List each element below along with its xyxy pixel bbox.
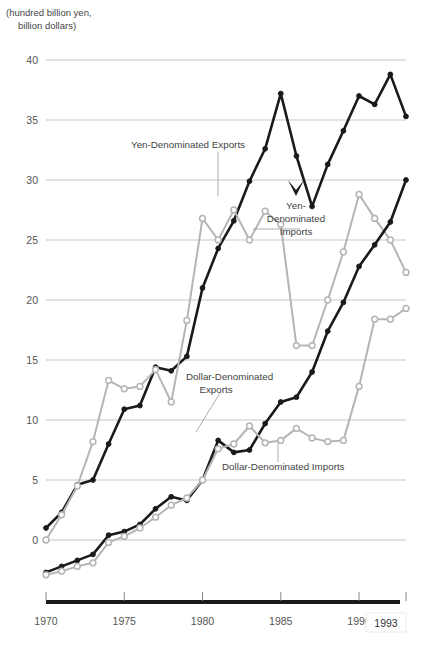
data-point bbox=[137, 384, 143, 390]
data-point bbox=[200, 216, 206, 222]
data-point bbox=[138, 403, 143, 408]
data-point bbox=[106, 378, 112, 384]
series-dollar-denominated-imports bbox=[43, 306, 409, 578]
data-point bbox=[294, 154, 299, 159]
data-point bbox=[247, 179, 252, 184]
data-point bbox=[263, 421, 268, 426]
data-point bbox=[168, 502, 174, 508]
arrow-down-icon bbox=[288, 180, 304, 196]
x-axis-ticks bbox=[46, 592, 406, 601]
data-point bbox=[325, 297, 331, 303]
data-point bbox=[309, 343, 315, 349]
data-point bbox=[372, 242, 377, 247]
data-point bbox=[294, 395, 299, 400]
data-point bbox=[137, 525, 143, 531]
data-point bbox=[340, 249, 346, 255]
data-point bbox=[388, 220, 393, 225]
data-point bbox=[262, 440, 268, 446]
x-axis-tick-label: 1985 bbox=[269, 615, 293, 627]
data-point bbox=[278, 400, 283, 405]
data-point bbox=[169, 368, 174, 373]
data-point bbox=[43, 537, 49, 543]
data-point bbox=[387, 237, 393, 243]
y-axis-tick-label: 0 bbox=[32, 534, 38, 546]
y-axis-tick-label: 35 bbox=[26, 114, 38, 126]
data-point bbox=[372, 102, 377, 107]
data-point bbox=[122, 407, 127, 412]
data-point bbox=[216, 438, 221, 443]
data-point bbox=[59, 568, 65, 574]
data-point bbox=[403, 306, 409, 312]
x-axis-tick-label: 1980 bbox=[191, 615, 215, 627]
data-point bbox=[43, 572, 49, 578]
data-point bbox=[325, 329, 330, 334]
annotation-yen-exports: Yen-Denominated Exports bbox=[131, 139, 245, 150]
data-point bbox=[404, 178, 409, 183]
data-point bbox=[278, 438, 284, 444]
data-point bbox=[59, 512, 65, 518]
data-point bbox=[357, 264, 362, 269]
data-point bbox=[356, 384, 362, 390]
data-point bbox=[153, 514, 159, 520]
unit-label-line1: (hundred billion yen, bbox=[6, 7, 92, 18]
annotation-yen-imports-line2: Denominated bbox=[267, 213, 325, 224]
data-point bbox=[263, 146, 268, 151]
data-point bbox=[184, 354, 189, 359]
data-point bbox=[325, 439, 331, 445]
data-point bbox=[356, 192, 362, 198]
x-axis-tick-labels: 19701975198019851990 bbox=[34, 615, 371, 627]
series-line bbox=[46, 194, 406, 540]
data-point bbox=[216, 246, 221, 251]
data-point bbox=[294, 343, 300, 349]
data-point bbox=[231, 218, 236, 223]
data-point bbox=[200, 286, 205, 291]
data-point bbox=[168, 399, 174, 405]
data-point bbox=[341, 128, 346, 133]
series-line bbox=[46, 308, 406, 574]
x-axis-tick-label: 1975 bbox=[113, 615, 137, 627]
data-point bbox=[247, 237, 253, 243]
y-axis-tick-label: 15 bbox=[26, 354, 38, 366]
data-point bbox=[153, 367, 159, 373]
data-point bbox=[215, 237, 221, 243]
data-point bbox=[388, 72, 393, 77]
data-point bbox=[184, 318, 190, 324]
data-point bbox=[91, 552, 96, 557]
data-point bbox=[153, 506, 158, 511]
data-point bbox=[106, 533, 111, 538]
data-point bbox=[121, 386, 127, 392]
data-point bbox=[106, 442, 111, 447]
data-point bbox=[325, 162, 330, 167]
data-point bbox=[404, 114, 409, 119]
data-point bbox=[231, 450, 236, 455]
unit-label-line2: billion dollars) bbox=[18, 20, 76, 31]
data-point bbox=[121, 534, 127, 540]
y-axis-tick-label: 5 bbox=[32, 474, 38, 486]
data-point bbox=[74, 564, 80, 570]
trade-denomination-line-chart: (hundred billion yen, billion dollars) 0… bbox=[0, 0, 433, 645]
data-point bbox=[403, 270, 409, 276]
data-point bbox=[294, 426, 300, 432]
data-point bbox=[231, 441, 237, 447]
data-point bbox=[90, 439, 96, 445]
data-point bbox=[247, 448, 252, 453]
data-point bbox=[278, 91, 283, 96]
data-point bbox=[90, 560, 96, 566]
data-point bbox=[74, 483, 80, 489]
data-point bbox=[247, 423, 253, 429]
y-axis-tick-label: 30 bbox=[26, 174, 38, 186]
data-point bbox=[231, 207, 237, 213]
data-point bbox=[169, 494, 174, 499]
annotation-dollar-imports: Dollar-Denominated Imports bbox=[222, 461, 345, 472]
data-point bbox=[310, 370, 315, 375]
series-yen-denominated-imports bbox=[43, 192, 409, 543]
data-point bbox=[184, 495, 190, 501]
x-axis-tick-label: 1970 bbox=[34, 615, 58, 627]
y-axis-tick-labels: 0510152025303540 bbox=[26, 54, 38, 546]
data-point bbox=[372, 316, 378, 322]
data-point bbox=[91, 478, 96, 483]
data-point bbox=[75, 558, 80, 563]
data-point bbox=[341, 300, 346, 305]
data-point bbox=[310, 204, 315, 209]
data-point bbox=[340, 438, 346, 444]
